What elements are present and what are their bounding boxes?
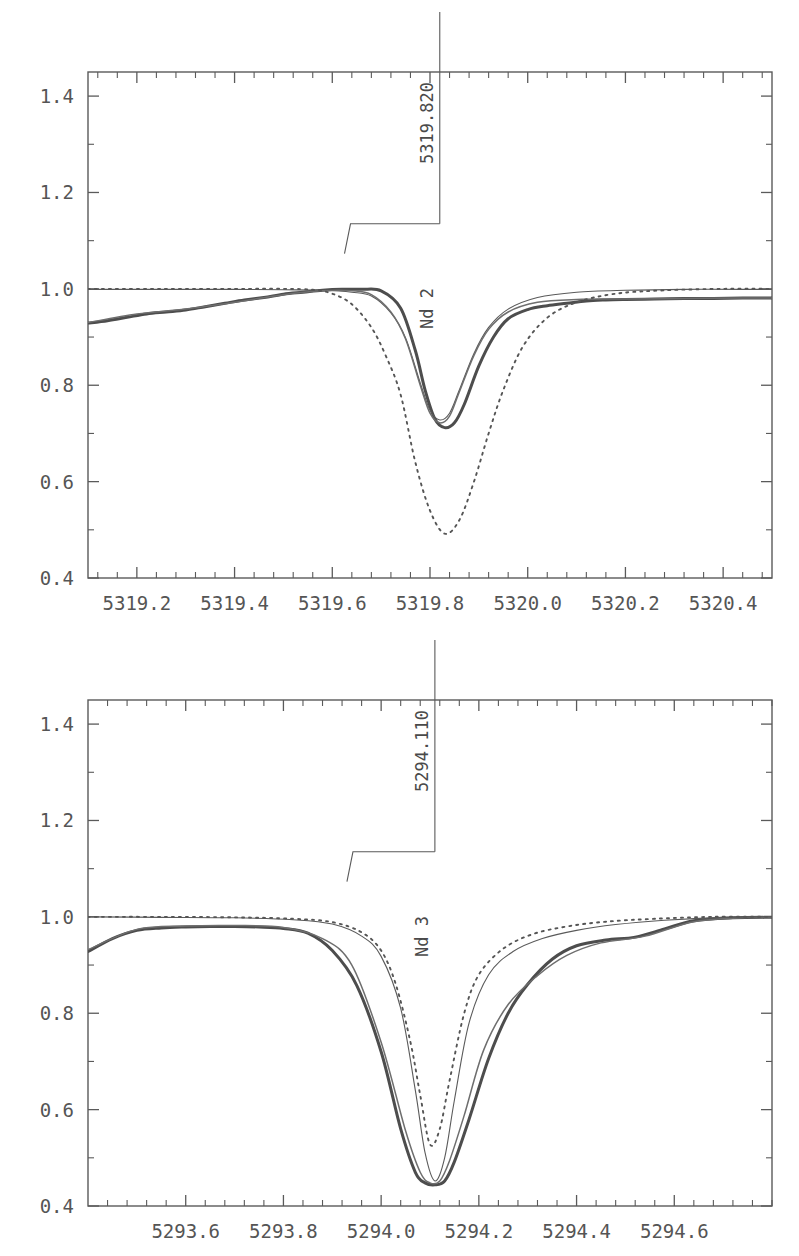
x-tick-label: 5320.0 — [493, 592, 562, 614]
annotation-element-label: Nd 2 — [417, 288, 437, 329]
x-tick-label: 5319.6 — [298, 592, 367, 614]
y-tick-label: 0.4 — [40, 567, 74, 589]
y-tick-label: 1.2 — [40, 181, 74, 203]
x-tick-label: 5294.2 — [445, 1220, 514, 1242]
annotation-element-label: Nd 3 — [412, 916, 432, 957]
y-tick-label: 0.4 — [40, 1195, 74, 1217]
y-tick-label: 1.0 — [40, 906, 74, 928]
x-tick-label: 5294.0 — [347, 1220, 416, 1242]
x-tick-label: 5319.4 — [200, 592, 269, 614]
x-tick-label: 5294.6 — [640, 1220, 709, 1242]
panel-nd2: 5319.25319.45319.65319.85320.05320.25320… — [0, 0, 799, 628]
y-tick-label: 0.6 — [40, 1099, 74, 1121]
spectral-line-figure: 5319.25319.45319.65319.85320.05320.25320… — [0, 0, 799, 1256]
y-tick-label: 0.6 — [40, 471, 74, 493]
plot-area-nd2: 5319.25319.45319.65319.85320.05320.25320… — [0, 0, 799, 628]
x-tick-label: 5293.6 — [151, 1220, 220, 1242]
x-tick-label: 5320.4 — [689, 592, 758, 614]
x-tick-label: 5319.8 — [396, 592, 465, 614]
panel-nd3: 5293.65293.85294.05294.25294.45294.60.40… — [0, 628, 799, 1256]
x-tick-label: 5319.2 — [103, 592, 172, 614]
x-tick-label: 5320.2 — [591, 592, 660, 614]
y-tick-label: 1.4 — [40, 85, 74, 107]
y-tick-label: 1.0 — [40, 278, 74, 300]
annotation-leader-line — [345, 224, 440, 254]
annotation-wavelength-label: 5319.820 — [417, 82, 437, 164]
x-tick-label: 5293.8 — [249, 1220, 318, 1242]
y-tick-label: 0.8 — [40, 1002, 74, 1024]
x-tick-label: 5294.4 — [542, 1220, 611, 1242]
y-tick-label: 1.4 — [40, 713, 74, 735]
plot-area-nd3: 5293.65293.85294.05294.25294.45294.60.40… — [0, 628, 799, 1256]
y-tick-label: 1.2 — [40, 809, 74, 831]
y-tick-label: 0.8 — [40, 374, 74, 396]
annotation-wavelength-label: 5294.110 — [412, 710, 432, 792]
annotation-leader-line — [347, 852, 435, 882]
